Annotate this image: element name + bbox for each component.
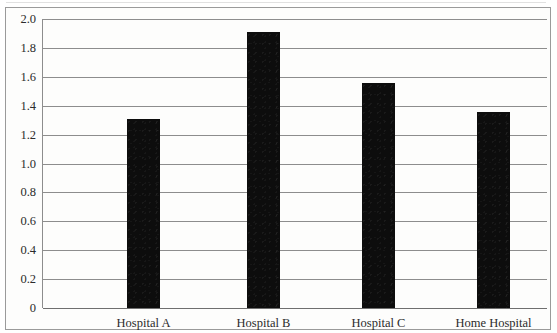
- scan-artifact-line: [6, 2, 546, 3]
- gridline-1-4: 1.4: [43, 106, 547, 107]
- bar-hospital-b: [247, 32, 280, 308]
- bar-hospital-a: [127, 119, 160, 308]
- gridline-1-0: 1.0: [43, 164, 547, 165]
- ytick-label-1-0: 1.0: [20, 157, 36, 170]
- gridline-1-8: 1.8: [43, 48, 547, 49]
- chart-figure-frame: 2.0 1.8 1.6 1.4 1.2 1.0 0.8 0.6 0.4 0.2: [5, 7, 551, 330]
- axis-baseline: 0: [43, 308, 547, 309]
- gridline-0-2: 0.2: [43, 279, 547, 280]
- xtick-label-hospital-b: Hospital B: [237, 317, 291, 330]
- ytick-label-1-8: 1.8: [20, 42, 36, 55]
- ytick-label-0-8: 0.8: [20, 186, 36, 199]
- gridline-0-6: 0.6: [43, 221, 547, 222]
- ytick-label-0-2: 0.2: [20, 273, 36, 286]
- ytick-label-0-4: 0.4: [20, 244, 36, 257]
- ytick-label-0: 0: [30, 302, 36, 315]
- gridline-0-4: 0.4: [43, 250, 547, 251]
- gridline-2-0: 2.0: [43, 19, 547, 20]
- ytick-label-0-6: 0.6: [20, 215, 36, 228]
- gridline-1-2: 1.2: [43, 135, 547, 136]
- gridline-0-8: 0.8: [43, 192, 547, 193]
- ytick-label-1-2: 1.2: [20, 128, 36, 141]
- plot-area: 2.0 1.8 1.6 1.4 1.2 1.0 0.8 0.6 0.4 0.2: [42, 19, 547, 308]
- ytick-label-2-0: 2.0: [20, 13, 36, 26]
- ytick-label-1-6: 1.6: [20, 71, 36, 84]
- bar-home-hospital: [477, 112, 510, 309]
- gridline-1-6: 1.6: [43, 77, 547, 78]
- ytick-label-1-4: 1.4: [20, 99, 36, 112]
- bar-hospital-c: [362, 83, 395, 308]
- xtick-label-home-hospital: Home Hospital: [455, 317, 531, 330]
- xtick-label-hospital-a: Hospital A: [117, 317, 171, 330]
- xtick-label-hospital-c: Hospital C: [352, 317, 406, 330]
